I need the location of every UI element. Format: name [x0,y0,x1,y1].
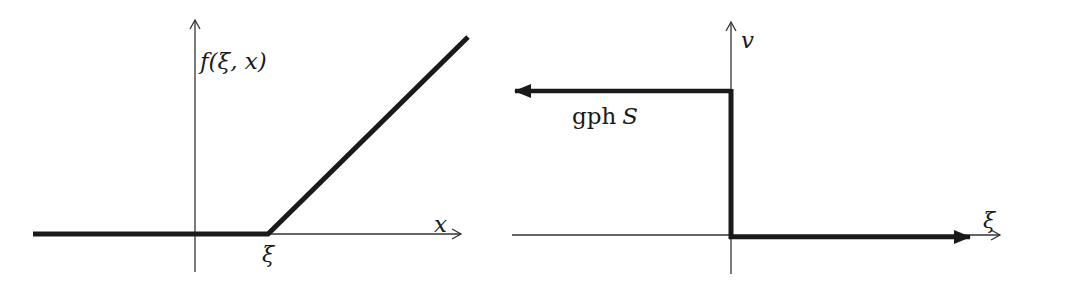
graph-label-gph: gph [572,103,616,129]
figure: f(ξ, x) x ξ v ξ gphS [0,0,1070,282]
right-plot: v ξ gphS [512,22,1000,274]
kink-label: ξ [262,242,276,267]
graph-label: gphS [572,103,638,129]
graph-label-s: S [622,103,638,129]
left-plot: f(ξ, x) x ξ [33,20,468,272]
x-axis-label: ξ [983,208,997,233]
x-axis-label: x [434,211,447,237]
y-axis-label: f(ξ, x) [198,48,267,74]
y-axis-label: v [741,27,754,53]
